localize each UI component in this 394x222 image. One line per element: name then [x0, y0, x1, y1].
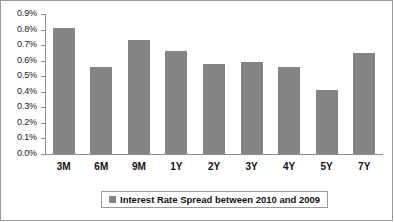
y-axis-tick-label: 0.8%	[17, 25, 37, 34]
x-axis-category-label: 4Y	[270, 161, 308, 172]
x-axis-category-label: 3Y	[233, 161, 271, 172]
plot-area	[45, 14, 383, 154]
y-axis-tick-label: 0.3%	[17, 102, 37, 111]
bar-slot	[83, 14, 121, 154]
bar-slot	[345, 14, 383, 154]
bar[interactable]	[53, 28, 75, 154]
bar-slot	[195, 14, 233, 154]
y-axis-tick-label: 0.6%	[17, 56, 37, 65]
bar[interactable]	[353, 53, 375, 154]
bar[interactable]	[128, 40, 150, 154]
bar-slot	[270, 14, 308, 154]
x-axis-category-label: 3M	[45, 161, 83, 172]
y-axis-tick-label: 0.9%	[17, 9, 37, 18]
x-axis-category-label: 7Y	[345, 161, 383, 172]
bar-slot	[45, 14, 83, 154]
bar[interactable]	[165, 51, 187, 154]
y-axis-tick-label: 0.4%	[17, 87, 37, 96]
bar[interactable]	[203, 64, 225, 154]
x-axis-category-label: 6M	[83, 161, 121, 172]
bar-slot	[233, 14, 271, 154]
chart-frame: 0.9%0.8%0.7%0.6%0.5%0.4%0.3%0.2%0.1%0.0%…	[0, 0, 393, 221]
y-axis-tick-label: 0.0%	[17, 149, 37, 158]
legend-swatch-icon	[109, 196, 116, 203]
bar[interactable]	[90, 67, 112, 154]
x-axis-category-label: 1Y	[158, 161, 196, 172]
bar[interactable]	[316, 90, 338, 154]
x-axis-category-label: 2Y	[195, 161, 233, 172]
y-axis-tick-label: 0.7%	[17, 40, 37, 49]
bar-slot	[308, 14, 346, 154]
legend-label: Interest Rate Spread between 2010 and 20…	[120, 195, 320, 205]
y-axis-tick-label: 0.2%	[17, 118, 37, 127]
x-axis-line	[45, 154, 383, 155]
bar[interactable]	[241, 62, 263, 154]
bar-slot	[158, 14, 196, 154]
x-axis-category-label: 9M	[120, 161, 158, 172]
x-axis-category-label: 5Y	[308, 161, 346, 172]
bar[interactable]	[278, 67, 300, 154]
bar-slot	[120, 14, 158, 154]
y-axis-tick-label: 0.1%	[17, 133, 37, 142]
chart-legend: Interest Rate Spread between 2010 and 20…	[101, 191, 328, 208]
y-axis-tick-label: 0.5%	[17, 71, 37, 80]
y-axis-tick-mark	[41, 154, 45, 155]
